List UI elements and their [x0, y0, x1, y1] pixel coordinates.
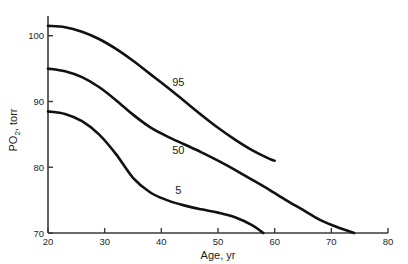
- plot-background: [0, 0, 408, 264]
- curve-label-5: 5: [175, 184, 181, 196]
- x-tick-label: 80: [383, 236, 394, 247]
- y-tick-label: 70: [33, 228, 44, 239]
- x-tick-label: 30: [99, 236, 110, 247]
- chart-figure: 20304050607080 708090100 95505 Age, yr P…: [0, 0, 408, 264]
- y-axis-title-rest: , torr: [7, 108, 19, 131]
- x-tick-label: 20: [43, 236, 54, 247]
- x-axis-title: Age, yr: [201, 249, 236, 261]
- y-tick-label: 90: [33, 96, 44, 107]
- x-tick-label: 70: [326, 236, 337, 247]
- y-axis-title-base: PO: [7, 135, 19, 151]
- x-tick-label: 50: [213, 236, 224, 247]
- x-tick-label: 40: [156, 236, 167, 247]
- po2-vs-age-line-chart: 20304050607080 708090100 95505 Age, yr P…: [0, 0, 408, 264]
- y-tick-label: 100: [28, 30, 44, 41]
- y-tick-label: 80: [33, 162, 44, 173]
- curve-label-95: 95: [172, 76, 184, 88]
- x-tick-label: 60: [269, 236, 280, 247]
- curve-label-50: 50: [172, 144, 184, 156]
